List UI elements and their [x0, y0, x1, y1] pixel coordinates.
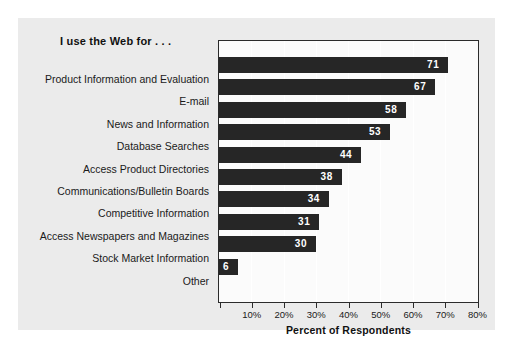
bar-value-label: 30	[295, 236, 307, 252]
x-axis-tick-label: 70%	[436, 309, 455, 320]
x-axis-tick-label: 10%	[242, 309, 261, 320]
bar-value-label: 71	[427, 57, 439, 73]
x-axis-tick	[284, 303, 285, 308]
category-label: Other	[183, 270, 209, 292]
bar-value-label: 58	[385, 102, 397, 118]
bar-value-label: 31	[298, 214, 310, 230]
x-axis-tick	[316, 303, 317, 308]
x-axis-tick	[478, 303, 479, 308]
bar-value-label: 38	[321, 169, 333, 185]
bar	[219, 124, 390, 140]
bar-row: 6	[219, 257, 477, 279]
x-axis-tick-label: 60%	[403, 309, 422, 320]
category-label: News and Information	[107, 113, 209, 135]
bar-row: 67	[219, 77, 477, 99]
bar-value-label: 67	[414, 79, 426, 95]
chart-title: I use the Web for . . .	[60, 35, 171, 47]
bar-row: 30	[219, 234, 477, 256]
bar-row: 58	[219, 100, 477, 122]
bar-row: 34	[219, 189, 477, 211]
bar-row: 71	[219, 55, 477, 77]
bar-row: 38	[219, 167, 477, 189]
bars-layer: 7167585344383431306	[219, 41, 478, 302]
x-axis-tick	[349, 303, 350, 308]
bar	[219, 79, 435, 95]
chart-panel: I use the Web for . . . Product Informat…	[18, 18, 495, 330]
bar	[219, 102, 406, 118]
category-label: Stock Market Information	[92, 247, 209, 269]
x-axis-tick-label: 20%	[274, 309, 293, 320]
plot-area: 7167585344383431306	[218, 40, 479, 303]
category-label: Database Searches	[117, 135, 209, 157]
x-axis-tick	[413, 303, 414, 308]
bar-row: 44	[219, 145, 477, 167]
category-label: Communications/Bulletin Boards	[57, 180, 209, 202]
x-axis-tick-label: 80%	[468, 309, 487, 320]
bar-value-label: 34	[308, 191, 320, 207]
bar	[219, 57, 448, 73]
bar-row: 31	[219, 212, 477, 234]
x-axis-tick	[220, 303, 221, 308]
category-label: Product Information and Evaluation	[45, 68, 209, 90]
x-axis-title: Percent of Respondents	[218, 324, 479, 336]
x-axis-tick-label: 40%	[339, 309, 358, 320]
category-label: E-mail	[179, 90, 209, 112]
x-axis-tick	[252, 303, 253, 308]
bar-row: 53	[219, 122, 477, 144]
x-axis-ticks	[218, 303, 479, 308]
category-label: Competitive Information	[98, 202, 209, 224]
bar-value-label: 44	[340, 147, 352, 163]
category-label: Access Product Directories	[83, 158, 209, 180]
x-axis-tick	[445, 303, 446, 308]
category-axis: Product Information and EvaluationE-mail…	[18, 54, 215, 278]
x-axis-tick	[381, 303, 382, 308]
bar-value-label: 53	[369, 124, 381, 140]
category-label: Access Newspapers and Magazines	[40, 225, 209, 247]
bar-value-label: 6	[223, 259, 229, 275]
x-axis-tick-labels: 10%20%30%40%50%60%70%80%	[218, 309, 479, 323]
x-axis-tick-label: 30%	[307, 309, 326, 320]
x-axis-tick-label: 50%	[371, 309, 390, 320]
